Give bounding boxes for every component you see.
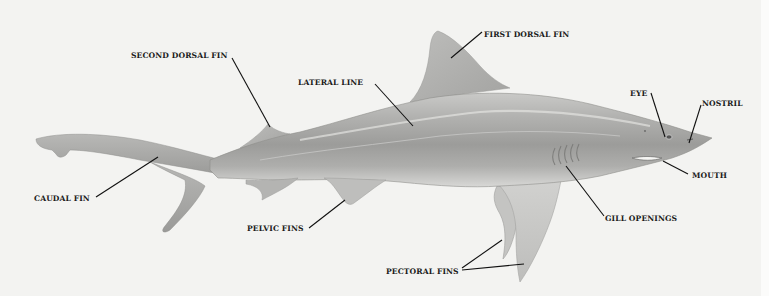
diagram-canvas: SECOND DORSAL FIN LATERAL LINE FIRST DOR… bbox=[0, 0, 769, 296]
spiracle-dot bbox=[644, 130, 646, 132]
shark-body bbox=[210, 93, 712, 187]
leader-caudal-fin bbox=[96, 157, 158, 197]
label-caudal-fin: CAUDAL FIN bbox=[34, 194, 90, 203]
leader-pelvic-fins bbox=[309, 200, 345, 228]
label-first-dorsal-fin: FIRST DORSAL FIN bbox=[484, 30, 569, 39]
label-pectoral-fins: PECTORAL FINS bbox=[386, 267, 459, 276]
leader-mouth bbox=[663, 161, 688, 174]
caudal-fin-shape bbox=[36, 134, 230, 232]
eye-shape bbox=[666, 135, 672, 139]
pelvic-fin-rear bbox=[246, 178, 298, 200]
shark-anatomy-diagram: SECOND DORSAL FIN LATERAL LINE FIRST DOR… bbox=[0, 0, 769, 296]
pelvic-fin-front bbox=[324, 178, 386, 204]
label-second-dorsal-fin: SECOND DORSAL FIN bbox=[131, 51, 228, 60]
label-eye: EYE bbox=[630, 89, 647, 98]
label-pelvic-fins: PELVIC FINS bbox=[247, 224, 304, 233]
leader-pectoral-fins-b bbox=[462, 264, 524, 270]
leader-second-dorsal-fin bbox=[232, 58, 270, 127]
caudal-lower-lobe bbox=[150, 162, 205, 232]
label-gill-openings: GILL OPENINGS bbox=[605, 214, 678, 223]
label-nostril: NOSTRIL bbox=[702, 99, 743, 108]
caudal-upper-lobe bbox=[36, 134, 230, 176]
leader-pectoral-fins-a bbox=[462, 240, 502, 268]
label-mouth: MOUTH bbox=[692, 171, 727, 180]
label-lateral-line: LATERAL LINE bbox=[298, 78, 363, 87]
pelvic-fins-shape bbox=[246, 178, 386, 204]
first-dorsal-fin-shape bbox=[410, 31, 510, 102]
